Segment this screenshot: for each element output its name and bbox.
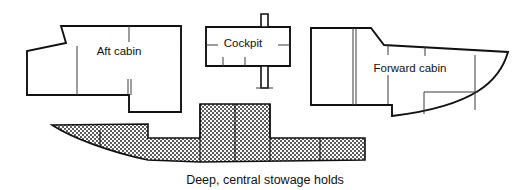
hull-profile-group xyxy=(52,104,365,162)
figure-caption: Deep, central stowage holds xyxy=(186,173,344,187)
aft-cabin-group: Aft cabin xyxy=(27,26,181,112)
mast-shaft-upper xyxy=(261,14,268,27)
aft-cabin-outline xyxy=(27,26,181,112)
boat-plan-figure: Aft cabin Cockpit xyxy=(0,0,530,190)
mast-shaft-lower xyxy=(261,66,268,88)
aft-cabin-label: Aft cabin xyxy=(97,45,142,57)
cockpit-label: Cockpit xyxy=(224,37,263,49)
boat-plan-drawing: Aft cabin Cockpit xyxy=(0,0,530,190)
hull-profile-outline xyxy=(52,104,365,162)
forward-cabin-label: Forward cabin xyxy=(374,62,447,74)
cockpit-group: Cockpit xyxy=(206,14,290,88)
forward-cabin-group: Forward cabin xyxy=(311,28,508,116)
